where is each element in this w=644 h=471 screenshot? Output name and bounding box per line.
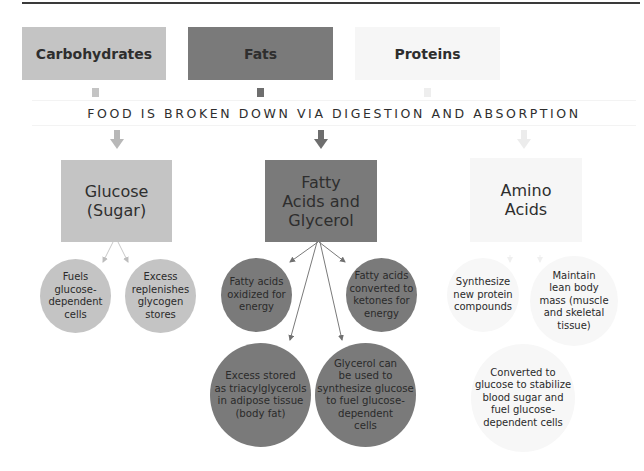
- source-label-carbohydrates: Carbohydrates: [36, 46, 152, 62]
- down-arrow-icon: [110, 130, 124, 150]
- outcome-circle-gluconeogenesis: Converted to glucose to stabilize blood …: [471, 344, 575, 452]
- outcome-circle-glycerol: Glycerol can be used to synthesize gluco…: [315, 343, 416, 447]
- connector-proteins: [424, 88, 431, 97]
- product-label-glucose: Glucose (Sugar): [85, 182, 149, 220]
- outcome-circle-adipose: Excess stored as triacylglycerols in adi…: [210, 343, 311, 447]
- down-arrow-icon: [314, 130, 328, 150]
- product-box-amino-acids: Amino Acids: [470, 158, 582, 242]
- outcome-text: Fatty acids converted to ketones for ene…: [350, 270, 414, 320]
- outcome-text: Excess stored as triacylglycerols in adi…: [214, 370, 306, 420]
- source-label-proteins: Proteins: [394, 46, 460, 62]
- source-box-fats: Fats: [188, 27, 333, 80]
- source-label-fats: Fats: [244, 46, 277, 62]
- digestion-banner-text: FOOD IS BROKEN DOWN VIA DIGESTION AND AB…: [87, 106, 581, 121]
- outcome-text: Converted to glucose to stabilize blood …: [475, 367, 571, 430]
- down-arrow-icon: [517, 130, 531, 150]
- product-label-amino-acids: Amino Acids: [501, 181, 552, 219]
- source-box-proteins: Proteins: [355, 27, 500, 80]
- outcome-text: Fatty acids oxidized for energy: [227, 276, 285, 314]
- outcome-text: Maintain lean body mass (muscle and skel…: [539, 270, 608, 333]
- top-rule: [22, 2, 640, 4]
- outcome-text: Synthesize new protein compounds: [453, 276, 512, 314]
- outcome-circle-lean-mass: Maintain lean body mass (muscle and skel…: [530, 256, 618, 346]
- product-box-glucose: Glucose (Sugar): [61, 160, 172, 242]
- source-box-carbohydrates: Carbohydrates: [22, 27, 166, 80]
- product-box-fatty-acids: Fatty Acids and Glycerol: [265, 160, 377, 242]
- outcome-circle-protein-synthesis: Synthesize new protein compounds: [447, 258, 519, 332]
- outcome-circle-oxidized: Fatty acids oxidized for energy: [221, 258, 292, 332]
- outcome-text: Glycerol can be used to synthesize gluco…: [317, 358, 414, 433]
- connector-fats: [257, 88, 264, 97]
- connector-carbohydrates: [92, 88, 99, 97]
- digestion-banner: FOOD IS BROKEN DOWN VIA DIGESTION AND AB…: [32, 100, 636, 126]
- outcome-circle-fuels-cells: Fuels glucose- dependent cells: [40, 259, 111, 333]
- outcome-circle-glycogen: Excess replenishes glycogen stores: [125, 259, 196, 333]
- product-label-fatty-acids: Fatty Acids and Glycerol: [282, 173, 360, 230]
- outcome-text: Fuels glucose- dependent cells: [48, 271, 102, 321]
- outcome-text: Excess replenishes glycogen stores: [132, 271, 189, 321]
- outcome-circle-ketones: Fatty acids converted to ketones for ene…: [346, 258, 417, 332]
